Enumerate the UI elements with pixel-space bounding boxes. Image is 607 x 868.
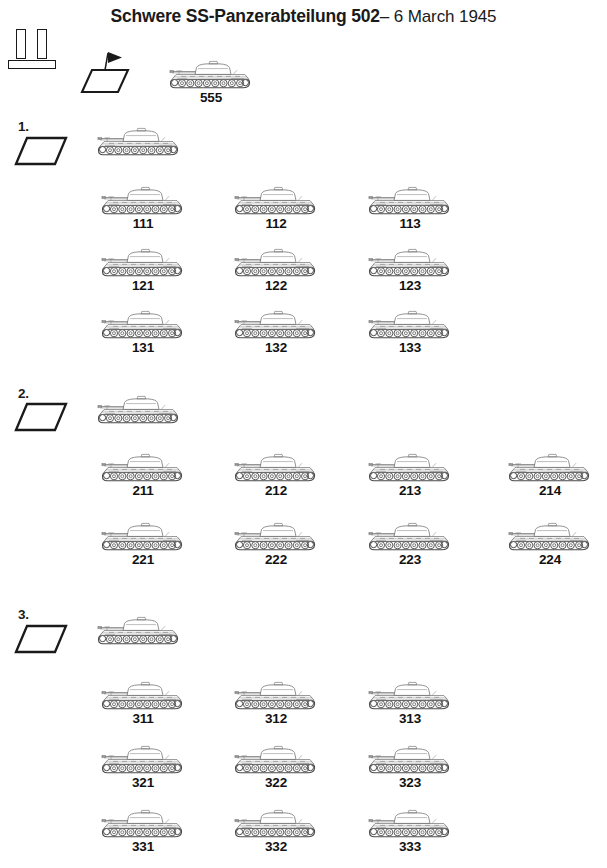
tank-323 [364,742,456,776]
tank-222 [230,519,322,553]
tank-212 [230,450,322,484]
tank-number-label: 123 [364,278,456,293]
hq-tank-555 [165,57,257,91]
company-label-3: 3. [18,607,29,622]
company-label-2: 2. [18,386,29,401]
tank-123 [364,245,456,279]
page-title-date: – 6 March 1945 [380,7,497,26]
tank-number-label: 211 [97,483,189,498]
tank-number-label: 222 [230,552,322,567]
company-command-tank-2 [93,392,185,426]
tank-number-label: 113 [364,216,456,231]
page-title-main: Schwere SS-Panzerabteilung 502 [111,6,380,26]
battalion-bar-left [16,29,26,59]
company-parallelogram-symbol-1 [14,133,68,167]
tank-312 [230,678,322,712]
tank-number-label: 131 [97,340,189,355]
battalion-bars-symbol [8,29,62,71]
tank-313 [364,678,456,712]
hq-flag-parallelogram-symbol [78,50,134,96]
tank-311 [97,678,189,712]
tank-131 [97,307,189,341]
battalion-bar-base [8,60,56,69]
tank-number-label: 122 [230,278,322,293]
tank-number-label: 322 [230,775,322,790]
tank-121 [97,245,189,279]
tank-number-label: 332 [230,839,322,854]
tank-331 [97,806,189,840]
tank-number-label: 121 [97,278,189,293]
tank-number-label: 321 [97,775,189,790]
tank-223 [364,519,456,553]
tank-221 [97,519,189,553]
tank-number-label: 223 [364,552,456,567]
page-title: Schwere SS-Panzerabteilung 502– 6 March … [0,6,607,27]
tank-332 [230,806,322,840]
tank-number-label: 313 [364,711,456,726]
tank-number-label: 212 [230,483,322,498]
tank-number-label: 132 [230,340,322,355]
tank-number-label: 111 [97,216,189,231]
tank-132 [230,307,322,341]
tank-333 [364,806,456,840]
tank-number-label: 323 [364,775,456,790]
tank-number-label: 221 [97,552,189,567]
company-command-tank-1 [93,124,185,158]
tank-224 [504,519,596,553]
company-label-1: 1. [18,119,29,134]
tank-number-label: 555 [165,90,257,105]
tank-number-label: 311 [97,711,189,726]
tank-214 [504,450,596,484]
company-parallelogram-symbol-3 [14,621,68,655]
tank-133 [364,307,456,341]
company-parallelogram-symbol-2 [14,399,68,433]
tank-111 [97,183,189,217]
tank-122 [230,245,322,279]
tank-number-label: 112 [230,216,322,231]
tank-number-label: 214 [504,483,596,498]
battalion-bar-right [37,29,47,59]
tank-number-label: 224 [504,552,596,567]
tank-321 [97,742,189,776]
tank-number-label: 213 [364,483,456,498]
tank-number-label: 333 [364,839,456,854]
tank-322 [230,742,322,776]
company-command-tank-3 [93,613,185,647]
tank-112 [230,183,322,217]
tank-number-label: 312 [230,711,322,726]
tank-211 [97,450,189,484]
tank-113 [364,183,456,217]
tank-number-label: 133 [364,340,456,355]
tank-213 [364,450,456,484]
tank-number-label: 331 [97,839,189,854]
